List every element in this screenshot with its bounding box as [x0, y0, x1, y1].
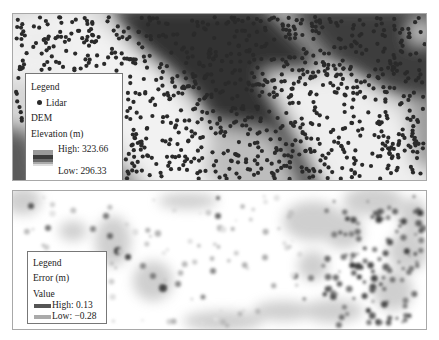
legend-lidar-entry: Lidar — [37, 99, 67, 109]
lidar-point-icon — [37, 100, 42, 105]
error-low-swatch-icon — [34, 315, 51, 319]
legend-title: Legend — [33, 259, 62, 269]
error-map-panel: Legend Error (m) Value High: 0.13 Low: −… — [12, 190, 427, 330]
error-high-swatch-icon — [34, 304, 51, 308]
legend-high-label: High: 0.13 — [52, 301, 93, 311]
legend-dem-label: DEM — [31, 114, 52, 124]
legend-value-label: Value — [33, 290, 55, 300]
dem-map-panel: Legend Lidar DEM Elevation (m) High: 323… — [12, 13, 427, 181]
error-legend: Legend Error (m) Value High: 0.13 Low: −… — [27, 251, 107, 324]
legend-high-label: High: 323.66 — [58, 145, 108, 155]
legend-low-label: Low: 296.33 — [58, 167, 107, 177]
elevation-color-ramp-icon — [33, 150, 53, 166]
dem-legend: Legend Lidar DEM Elevation (m) High: 323… — [25, 73, 123, 181]
legend-low-label: Low: −0.28 — [52, 312, 96, 322]
legend-lidar-label: Lidar — [46, 98, 67, 108]
legend-title: Legend — [31, 83, 60, 93]
legend-error-label: Error (m) — [33, 274, 69, 284]
legend-elevation-label: Elevation (m) — [31, 130, 84, 140]
